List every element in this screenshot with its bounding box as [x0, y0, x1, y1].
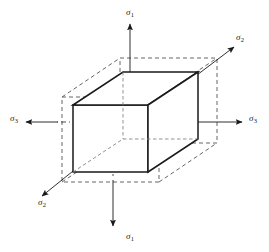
axis-sigma2-upper-arrow — [193, 47, 234, 78]
stress-cube-group — [73, 72, 198, 172]
sigma1-top-symbol: σ — [126, 7, 130, 17]
sigma2-upper-symbol: σ — [236, 32, 240, 42]
axis-label-sigma1-top: σ1 — [126, 8, 134, 17]
axis-label-sigma2-upper: σ2 — [236, 33, 244, 42]
sigma1-top-subscript: 1 — [131, 11, 134, 18]
sigma3-left-symbol: σ — [10, 113, 14, 123]
stress-element-drawing — [0, 0, 269, 252]
sigma1-bottom-subscript: 1 — [131, 235, 134, 242]
sigma3-left-subscript: 3 — [15, 117, 18, 124]
axis-label-sigma3-right: σ3 — [249, 114, 257, 123]
stress-element-figure: σ1 σ1 σ2 σ2 σ3 σ3 — [0, 0, 269, 252]
axis-label-sigma3-left: σ3 — [10, 114, 18, 123]
sigma1-bottom-symbol: σ — [126, 231, 130, 241]
sigma3-right-subscript: 3 — [254, 117, 257, 124]
sigma2-upper-subscript: 2 — [241, 36, 244, 43]
axis-label-sigma1-bottom: σ1 — [126, 232, 134, 241]
axis-label-sigma2-lower: σ2 — [38, 198, 46, 207]
sigma3-right-symbol: σ — [249, 113, 253, 123]
cube-front-face — [73, 105, 148, 172]
sigma2-lower-symbol: σ — [38, 197, 42, 207]
sigma2-lower-subscript: 2 — [43, 201, 46, 208]
